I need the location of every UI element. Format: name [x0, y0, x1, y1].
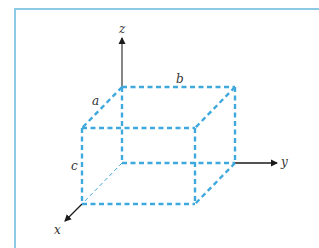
edge-bottom-right-depth — [195, 163, 235, 204]
box-edges — [82, 87, 235, 204]
dimension-b-label: b — [176, 72, 184, 86]
box-diagram-svg: z y x a b c — [0, 0, 319, 248]
dimension-a-label: a — [92, 94, 99, 108]
z-axis-label: z — [118, 22, 126, 36]
x-axis-label: x — [54, 223, 61, 237]
y-axis-label: y — [280, 155, 288, 169]
edge-top-right-depth — [195, 87, 235, 128]
dimension-c-label: c — [71, 159, 78, 173]
diagram-canvas: z y x a b c — [0, 0, 319, 248]
edge-top-left-depth — [82, 87, 122, 128]
